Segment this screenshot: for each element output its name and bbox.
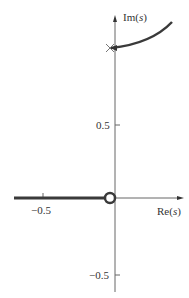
y-axis-label-text: Im [123,11,135,23]
tick-label-x-neg: −0.5 [31,205,51,216]
root-locus-plot [0,0,189,298]
locus-branch-complex [111,22,172,48]
real-axis-arrow-icon [177,196,184,200]
x-axis-label-var: s [173,205,177,217]
zero-marker-icon [105,193,115,203]
tick-label-y-pos: 0.5 [96,120,110,131]
y-axis-label-var: s [139,11,143,23]
x-axis-label-text: Re [157,205,169,217]
x-axis-label: Re(s) [157,206,181,217]
y-axis-label: Im(s) [123,12,147,23]
tick-label-y-neg: −0.5 [89,270,109,281]
locus-direction-arrow-icon [110,45,117,51]
imaginary-axis-arrow-icon [113,15,117,22]
